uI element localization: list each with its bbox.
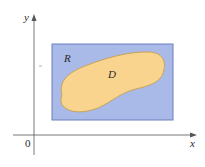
- domain-label-d: D: [107, 68, 116, 80]
- y-axis-label: y: [23, 11, 29, 23]
- diagram-svg: y x 0 R D: [0, 0, 205, 167]
- y-axis-arrow-icon: [32, 14, 37, 21]
- rectangle-label-r: R: [63, 52, 71, 64]
- x-axis-label: x: [189, 137, 195, 149]
- origin-label: 0: [25, 137, 31, 149]
- double-integral-region-diagram: y x 0 R D: [0, 0, 205, 167]
